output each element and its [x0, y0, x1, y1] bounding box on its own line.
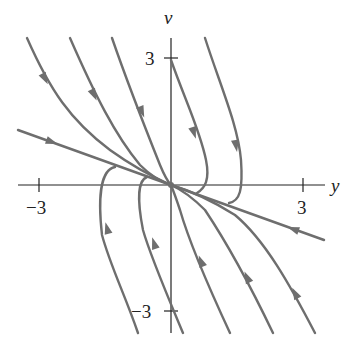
arrow-icon	[286, 223, 300, 235]
solution-curve-4	[171, 60, 207, 193]
x-tick-label-3: 3	[297, 198, 307, 217]
v-axis-label: v	[164, 8, 172, 27]
x-tick-label-neg3: −3	[26, 198, 46, 217]
arrow-icon	[45, 136, 59, 148]
phase-plane-svg	[0, 0, 351, 351]
y-axis-label: y	[331, 176, 339, 195]
solution-curve-5	[205, 38, 242, 203]
y-tick-label-3: 3	[145, 49, 155, 68]
phase-portrait: v y −3 3 3 −3	[0, 0, 351, 351]
equilibrium-point	[168, 182, 174, 188]
solution-curve-10	[171, 185, 315, 333]
arrow-icon	[102, 221, 113, 235]
y-tick-label-neg3: −3	[131, 302, 151, 321]
